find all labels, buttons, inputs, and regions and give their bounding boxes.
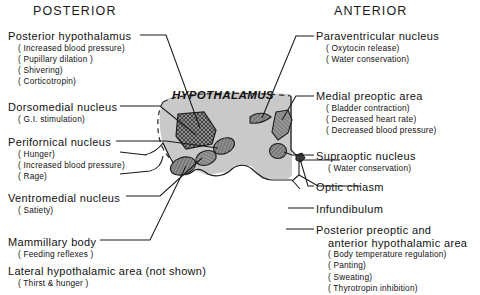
left-tract-line — [120, 152, 146, 155]
diagram-page: POSTERIOR ANTERIOR Posterior hypothalamu… — [0, 0, 480, 295]
leader-mammillary-body — [100, 166, 186, 240]
anatomy-illustration — [0, 0, 480, 295]
nucleus-supraoptic — [270, 144, 287, 159]
hypothalamus-region-label: HYPOTHALAMUS — [172, 89, 274, 101]
infundibulum-edge — [293, 181, 300, 189]
left-lower-outline — [120, 156, 163, 174]
right-lower-line — [299, 175, 360, 186]
